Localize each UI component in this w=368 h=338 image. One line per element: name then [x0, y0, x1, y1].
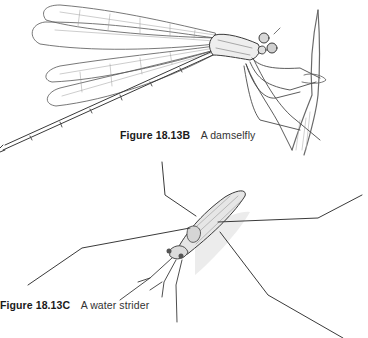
water-strider-head [167, 246, 189, 259]
figure-number: Figure 18.13B [120, 129, 190, 141]
figure-caption-water-strider: Figure 18.13C A water strider [0, 299, 149, 311]
figure-caption-damselfly: Figure 18.13B A damselfly [120, 129, 255, 141]
damselfly-thorax [209, 34, 259, 60]
figure-description: A water strider [81, 299, 150, 311]
grass-stem [292, 10, 326, 155]
water-strider-illustration [28, 162, 362, 338]
damselfly-head [258, 28, 280, 54]
figure-page [0, 0, 368, 338]
figure-description: A damselfly [201, 129, 256, 141]
water-strider-forelegs [120, 258, 182, 322]
figure-number: Figure 18.13C [0, 299, 70, 311]
